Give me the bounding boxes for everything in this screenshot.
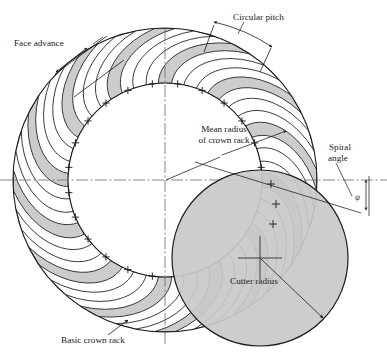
circular-pitch-leader: [238, 22, 244, 34]
label-face-advance: Face advance: [14, 38, 64, 49]
label-spiral-angle-line1: Spiral: [329, 142, 351, 153]
label-mean-radius-line2: of crown rack: [178, 135, 270, 146]
label-cutter-radius: Cutter radius: [230, 276, 278, 287]
label-spiral-angle-line2: angle: [328, 153, 348, 164]
label-mean-radius-line1: Mean radius: [183, 124, 265, 135]
label-spiral-angle-symbol: ψ: [355, 192, 360, 203]
spiral-angle-leader: [336, 163, 352, 196]
figure-canvas: Face advance Circular pitch Mean radius …: [0, 0, 387, 361]
mean-radius-line: [166, 157, 220, 180]
cutter-circle-group: [172, 170, 348, 346]
label-basic-crown-rack: Basic crown rack: [61, 335, 125, 346]
crown-rack-diagram: [0, 0, 387, 361]
label-circular-pitch: Circular pitch: [233, 12, 284, 23]
